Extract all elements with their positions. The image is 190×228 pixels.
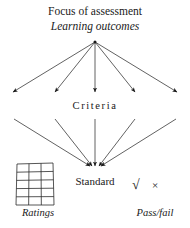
assessment-diagram: Focus of assessment Learning outcomes Cr…	[0, 0, 190, 228]
diagram-lines-svg	[0, 0, 190, 228]
page-title-focus: Focus of assessment	[0, 6, 190, 18]
upper-arrow-4	[95, 42, 135, 92]
page-subtitle-learning-outcomes: Learning outcomes	[0, 21, 190, 33]
upper-fan-arrows	[13, 42, 177, 92]
criteria-label: Criteria	[0, 100, 190, 114]
passfail-caption: Pass/fail	[126, 208, 184, 219]
upper-arrow-5	[95, 42, 177, 92]
ratings-caption: Ratings	[12, 208, 64, 219]
lower-arrow-2	[55, 119, 92, 166]
upper-arrow-1	[13, 42, 95, 92]
fan-apex-node	[94, 41, 97, 44]
check-mark-icon: √	[132, 178, 140, 192]
standard-label: Standard	[0, 176, 190, 187]
ratings-grid-row-line	[17, 163, 53, 164]
lower-fan-arrows	[14, 119, 176, 166]
cross-mark-icon: ×	[152, 180, 158, 191]
lower-arrow-1	[14, 119, 90, 166]
lower-arrow-5	[101, 119, 176, 166]
upper-arrow-2	[55, 42, 95, 92]
ratings-grid-row-line	[17, 171, 53, 172]
lower-arrow-4	[99, 119, 135, 166]
